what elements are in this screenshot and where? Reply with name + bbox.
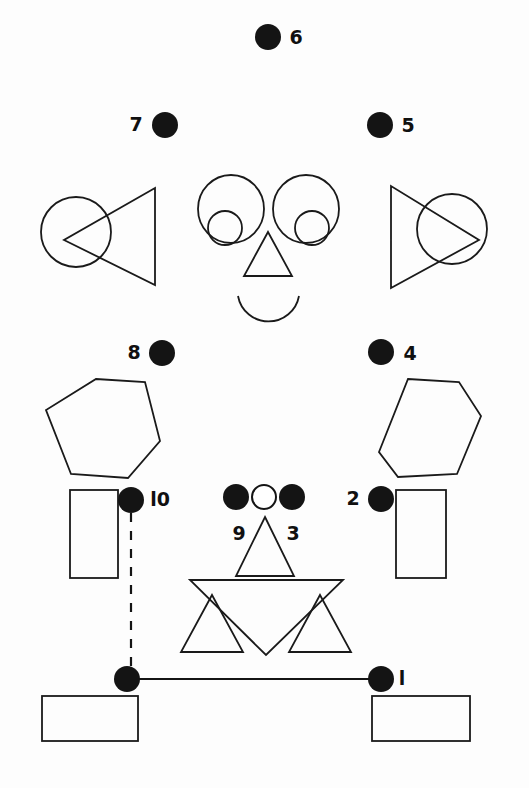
- filled-dot-marker[interactable]: [152, 112, 178, 138]
- filled-dot-marker[interactable]: [367, 112, 393, 138]
- left-eye-pupil-circle: [208, 211, 242, 245]
- filled-dot-marker[interactable]: [223, 484, 249, 510]
- dot-9[interactable]: 9: [223, 484, 249, 544]
- dot-10[interactable]: l0: [118, 487, 170, 513]
- left-hexagon: [46, 379, 160, 478]
- right-base-rectangle: [372, 696, 470, 741]
- geometric-figure-drawing: 67584l0293l: [0, 0, 529, 788]
- dot-4[interactable]: 4: [368, 339, 417, 365]
- dot-8[interactable]: 8: [127, 340, 175, 366]
- dot-7-label: 7: [129, 113, 142, 135]
- body-group: [42, 379, 481, 741]
- filled-dot-marker[interactable]: [255, 24, 281, 50]
- dot-8-label: 8: [127, 341, 140, 363]
- right-ear-circle: [417, 194, 487, 264]
- dot-1[interactable]: l: [368, 666, 405, 692]
- dot-1-label: l: [399, 667, 406, 689]
- filled-dot-marker[interactable]: [114, 666, 140, 692]
- right-ear-triangle: [391, 186, 479, 288]
- dot-7[interactable]: 7: [129, 112, 178, 138]
- dot-2[interactable]: 2: [346, 486, 394, 512]
- right-eye-pupil-circle: [295, 211, 329, 245]
- large-inverted-triangle: [190, 580, 343, 655]
- left-ear-circle: [41, 197, 111, 267]
- filled-dot-marker[interactable]: [279, 484, 305, 510]
- left-ear-triangle: [64, 188, 155, 285]
- nose-triangle: [244, 232, 292, 276]
- filled-dot-marker[interactable]: [368, 666, 394, 692]
- dot-5-label: 5: [401, 114, 414, 136]
- figure-canvas: 67584l0293l: [0, 0, 529, 788]
- filled-dot-marker[interactable]: [149, 340, 175, 366]
- dot-6-label: 6: [289, 26, 302, 48]
- dot-4-label: 4: [403, 342, 416, 364]
- left-upper-rectangle: [70, 490, 118, 578]
- numbered-dots-layer: 67584l0293l: [114, 24, 417, 692]
- dot-3-label: 3: [286, 522, 299, 544]
- dot-center[interactable]: [252, 485, 276, 509]
- face-group: [41, 175, 487, 321]
- dot-hip-left[interactable]: [114, 666, 140, 692]
- filled-dot-marker[interactable]: [118, 487, 144, 513]
- dot-9-label: 9: [232, 522, 245, 544]
- right-hexagon: [379, 379, 481, 477]
- dot-3[interactable]: 3: [279, 484, 305, 544]
- right-upper-rectangle: [396, 490, 446, 578]
- triangle-cluster-group: [181, 517, 351, 655]
- dot-10-label: l0: [150, 488, 170, 510]
- filled-dot-marker[interactable]: [368, 339, 394, 365]
- dot-5[interactable]: 5: [367, 112, 415, 138]
- filled-dot-marker[interactable]: [368, 486, 394, 512]
- left-base-rectangle: [42, 696, 138, 741]
- hollow-dot-marker[interactable]: [252, 485, 276, 509]
- dot-6[interactable]: 6: [255, 24, 303, 50]
- dot-2-label: 2: [346, 487, 359, 509]
- mouth-arc: [238, 296, 299, 321]
